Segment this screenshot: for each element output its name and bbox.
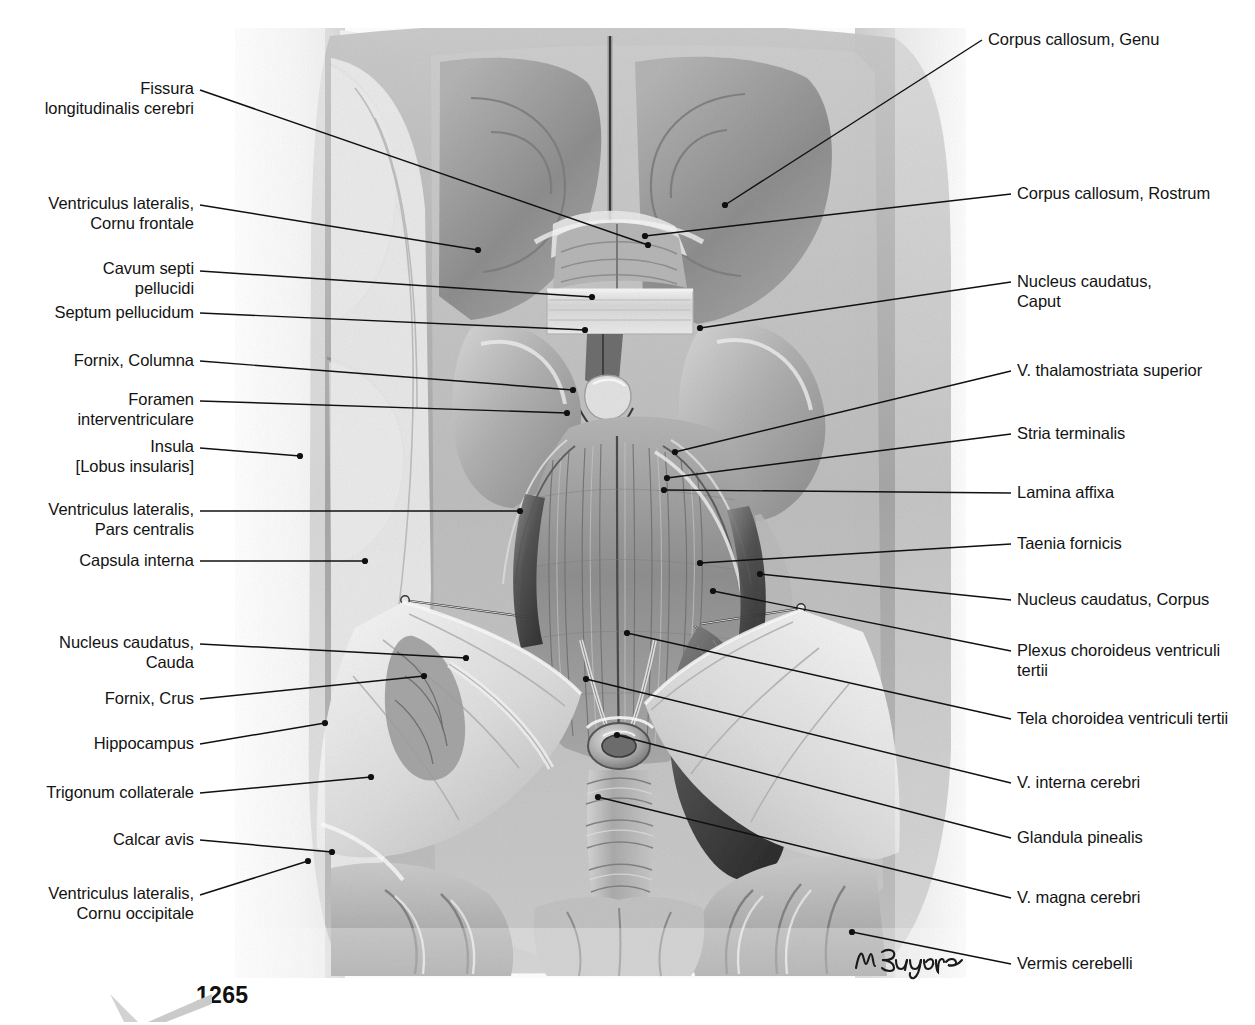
label-ventriculus-lateralis-cornu-frontale: Ventriculus lateralis, Cornu frontale xyxy=(8,194,194,233)
label-corpus-callosum-genu: Corpus callosum, Genu xyxy=(988,30,1159,50)
label-hippocampus: Hippocampus xyxy=(8,734,194,754)
artist-signature xyxy=(852,938,972,980)
label-trigonum-collaterale: Trigonum collaterale xyxy=(8,783,194,803)
label-calcar-avis: Calcar avis xyxy=(8,830,194,850)
label-v-interna-cerebri: V. interna cerebri xyxy=(1017,773,1140,793)
label-taenia-fornicis: Taenia fornicis xyxy=(1017,534,1122,554)
label-foramen-interventriculare: Foramen interventriculare xyxy=(8,390,194,429)
label-insula-lobus-insularis: Insula [Lobus insularis] xyxy=(8,437,194,476)
label-v-thalamostriata-superior: V. thalamostriata superior xyxy=(1017,361,1202,381)
anatomy-plate: Fissura longitudinalis cerebriVentriculu… xyxy=(0,0,1255,1025)
label-nucleus-caudatus-caput: Nucleus caudatus, Caput xyxy=(1017,272,1152,311)
label-stria-terminalis: Stria terminalis xyxy=(1017,424,1125,444)
label-capsula-interna: Capsula interna xyxy=(8,551,194,571)
label-glandula-pinealis: Glandula pinealis xyxy=(1017,828,1143,848)
label-v-magna-cerebri: V. magna cerebri xyxy=(1017,888,1140,908)
label-nucleus-caudatus-cauda: Nucleus caudatus, Cauda xyxy=(8,633,194,672)
label-fornix-crus: Fornix, Crus xyxy=(8,689,194,709)
anatomy-illustration xyxy=(235,28,966,978)
label-nucleus-caudatus-corpus: Nucleus caudatus, Corpus xyxy=(1017,590,1209,610)
label-plexus-choroideus-ventriculi-tertii: Plexus choroideus ventriculi tertii xyxy=(1017,641,1220,680)
label-fissura-longitudinalis-cerebri: Fissura longitudinalis cerebri xyxy=(8,79,194,118)
label-fornix-columna: Fornix, Columna xyxy=(8,351,194,371)
label-ventriculus-lateralis-pars-centralis: Ventriculus lateralis, Pars centralis xyxy=(8,500,194,539)
label-tela-choroidea-ventriculi-tertii: Tela choroidea ventriculi tertii xyxy=(1017,709,1228,729)
corner-registration-mark xyxy=(108,992,228,1025)
label-lamina-affixa: Lamina affixa xyxy=(1017,483,1114,503)
label-septum-pellucidum: Septum pellucidum xyxy=(8,303,194,323)
label-vermis-cerebelli: Vermis cerebelli xyxy=(1017,954,1133,974)
label-corpus-callosum-rostrum: Corpus callosum, Rostrum xyxy=(1017,184,1210,204)
label-cavum-septi-pellucidi: Cavum septi pellucidi xyxy=(8,259,194,298)
label-ventriculus-lateralis-cornu-occipitale: Ventriculus lateralis, Cornu occipitale xyxy=(8,884,194,923)
